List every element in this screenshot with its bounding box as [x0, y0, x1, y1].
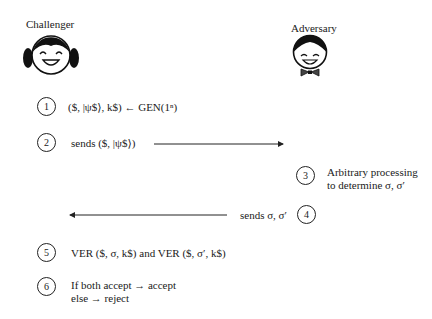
adversary-face-icon [294, 36, 327, 77]
step-4-number: 4 [297, 205, 316, 224]
step-3-text-line2: to determine σ, σ′ [327, 179, 405, 192]
step-3-text-line1: Arbitrary processing [327, 166, 418, 179]
step-1-number: 1 [37, 97, 56, 116]
challenger-face-icon [23, 36, 79, 74]
step-6-text-line2: else → reject [71, 292, 129, 305]
step-3-number: 3 [296, 166, 315, 185]
step-6-number: 6 [37, 277, 56, 296]
protocol-diagram [0, 0, 432, 319]
step-2-text: sends ($, |ψ$⟩) [71, 137, 135, 150]
step-4-text: sends σ, σ′ [240, 209, 287, 222]
step-1-text: ($, |ψ$⟩, k$) ← GEN(1ⁿ) [68, 101, 177, 114]
step-2-number: 2 [37, 133, 56, 152]
step-5-text: VER ($, σ, k$) and VER ($, σ′, k$) [71, 247, 226, 260]
step-5-number: 5 [37, 243, 56, 262]
step-6-text-line1: If both accept → accept [71, 279, 176, 292]
